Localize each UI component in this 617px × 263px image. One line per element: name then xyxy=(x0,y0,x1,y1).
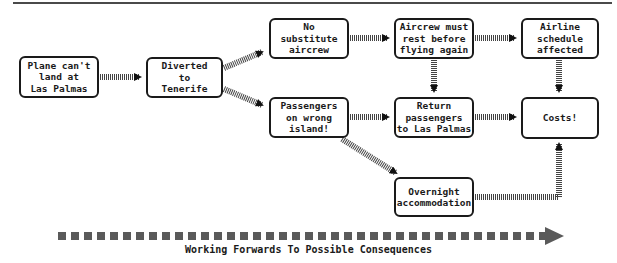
node-diverted-to-tenerife: Diverted to Tenerife xyxy=(146,57,223,98)
node-return-passengers: Return passengers to Las Palmas xyxy=(394,97,474,138)
node-costs: Costs! xyxy=(521,97,599,139)
edge-n2-n6 xyxy=(224,89,262,105)
timeline-arrow xyxy=(58,227,564,245)
edge-n6-n9 xyxy=(342,139,396,173)
node-overnight-accommodation: Overnight accommodation xyxy=(394,177,474,217)
edge-n9-n8 xyxy=(475,144,559,197)
edge-n2-n3 xyxy=(224,52,262,68)
node-plane-cant-land: Plane can't land at Las Palmas xyxy=(19,56,99,98)
timeline-caption: Working Forwards To Possible Consequence… xyxy=(0,244,617,255)
node-airline-schedule-affected: Airline schedule affected xyxy=(521,18,599,59)
node-no-substitute-aircrew: No substitute aircrew xyxy=(269,18,349,59)
node-passengers-wrong-island: Passengers on wrong island! xyxy=(269,97,349,138)
node-aircrew-must-rest: Aircrew must rest before flying again xyxy=(394,18,474,59)
